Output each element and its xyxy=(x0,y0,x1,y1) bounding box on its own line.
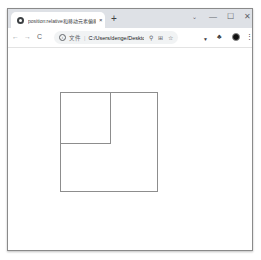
tab-close-icon[interactable]: × xyxy=(99,17,103,23)
zoom-icon[interactable]: ⚲ xyxy=(149,34,153,41)
close-window-button[interactable]: ✕ xyxy=(244,12,251,22)
address-bar[interactable]: i 文件 | C:/Users/denge/Desktop/书籍... ⚲ ⊞ … xyxy=(54,31,178,44)
reload-button[interactable]: C xyxy=(37,32,42,42)
page-content xyxy=(8,48,252,250)
url-text[interactable]: C:/Users/denge/Desktop/书籍... xyxy=(88,34,144,42)
inner-box xyxy=(60,92,111,144)
menu-icon[interactable]: ⋮ xyxy=(246,32,253,42)
tab-title: position:relative和移动元素偏移 xyxy=(28,17,96,24)
forward-button[interactable]: → xyxy=(24,32,31,42)
browser-window: position:relative和移动元素偏移 × + ⌄ — ☐ ✕ ← →… xyxy=(7,8,253,251)
minimize-button[interactable]: — xyxy=(209,12,217,22)
share-icon[interactable]: ⊞ xyxy=(158,34,163,41)
profile-avatar[interactable] xyxy=(232,33,240,41)
scheme-label: 文件 xyxy=(69,34,81,42)
info-icon[interactable]: i xyxy=(59,34,66,41)
back-button[interactable]: ← xyxy=(12,32,19,42)
separator: | xyxy=(84,35,85,41)
puzzle-icon[interactable]: ♣ xyxy=(217,32,222,42)
tab-search-icon[interactable]: ⌄ xyxy=(192,13,197,20)
browser-toolbar: ← → C i 文件 | C:/Users/denge/Desktop/书籍..… xyxy=(8,28,252,48)
tab-bar: position:relative和移动元素偏移 × + ⌄ — ☐ ✕ xyxy=(8,9,252,28)
extension-icon[interactable]: ▼ xyxy=(203,34,208,44)
bookmark-star-icon[interactable]: ☆ xyxy=(168,34,173,41)
globe-icon xyxy=(17,17,24,24)
active-tab[interactable]: position:relative和移动元素偏移 × xyxy=(11,12,105,28)
maximize-button[interactable]: ☐ xyxy=(227,12,234,22)
new-tab-button[interactable]: + xyxy=(111,13,117,25)
